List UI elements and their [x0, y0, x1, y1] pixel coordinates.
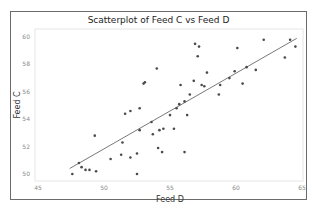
- regression-line: [70, 38, 297, 168]
- data-point: [219, 84, 222, 87]
- data-point: [120, 154, 123, 157]
- data-point: [169, 114, 172, 117]
- data-point: [179, 84, 182, 87]
- data-point: [95, 170, 98, 173]
- data-point: [206, 71, 209, 74]
- data-point: [203, 85, 206, 88]
- data-point: [245, 66, 248, 69]
- data-point: [255, 69, 258, 72]
- data-point: [241, 82, 244, 85]
- data-point: [84, 169, 87, 172]
- x-tick-label: 50: [100, 184, 108, 191]
- data-point: [144, 81, 147, 84]
- data-point: [162, 127, 165, 130]
- data-point: [183, 151, 186, 154]
- data-point: [129, 110, 132, 113]
- x-axis-label: Feed D: [156, 195, 184, 204]
- data-point: [93, 134, 96, 137]
- data-point: [228, 77, 231, 80]
- y-tick-label: 50: [22, 170, 30, 177]
- data-point: [121, 141, 124, 144]
- data-point: [124, 112, 127, 115]
- data-point: [71, 173, 74, 176]
- x-tick-label: 45: [34, 184, 42, 191]
- data-point: [262, 38, 265, 41]
- y-axis-ticks: 505254565860: [22, 33, 30, 177]
- data-point: [156, 67, 159, 70]
- data-point: [192, 80, 195, 83]
- data-point: [200, 84, 203, 87]
- x-tick-label: 55: [166, 184, 174, 191]
- y-axis-label: Feed C: [13, 91, 22, 119]
- data-point: [196, 55, 199, 58]
- data-point: [109, 158, 112, 161]
- y-tick-label: 58: [22, 60, 30, 67]
- y-tick-label: 54: [22, 115, 30, 122]
- data-points: [71, 38, 297, 175]
- data-point: [294, 45, 297, 48]
- data-point: [284, 56, 287, 59]
- data-point: [138, 107, 141, 110]
- data-point: [186, 114, 189, 117]
- data-point: [189, 93, 192, 96]
- data-point: [136, 173, 139, 176]
- data-point: [218, 93, 221, 96]
- x-tick-label: 60: [232, 184, 240, 191]
- y-tick-label: 52: [22, 143, 30, 150]
- data-point: [233, 70, 236, 73]
- data-point: [150, 121, 153, 124]
- x-axis-ticks: 4550556065: [34, 184, 306, 191]
- data-point: [138, 129, 141, 132]
- data-point: [136, 152, 139, 155]
- data-point: [161, 151, 164, 154]
- data-point: [78, 162, 81, 165]
- data-point: [173, 127, 176, 130]
- data-point: [80, 166, 83, 169]
- data-point: [152, 133, 155, 136]
- data-point: [157, 147, 160, 150]
- x-tick-label: 65: [298, 184, 306, 191]
- data-point: [236, 47, 239, 50]
- data-point: [198, 45, 201, 48]
- data-point: [129, 156, 132, 159]
- data-point: [178, 103, 181, 106]
- y-tick-label: 56: [22, 88, 30, 95]
- data-point: [175, 107, 178, 110]
- data-point: [194, 43, 197, 46]
- scatter-plot: 505254565860 4550556065 Feed D Feed C: [0, 0, 319, 214]
- data-point: [289, 38, 292, 41]
- data-point: [183, 100, 186, 103]
- data-point: [88, 169, 91, 172]
- data-point: [158, 129, 161, 132]
- plot-area: [35, 29, 303, 181]
- y-tick-label: 60: [22, 33, 30, 40]
